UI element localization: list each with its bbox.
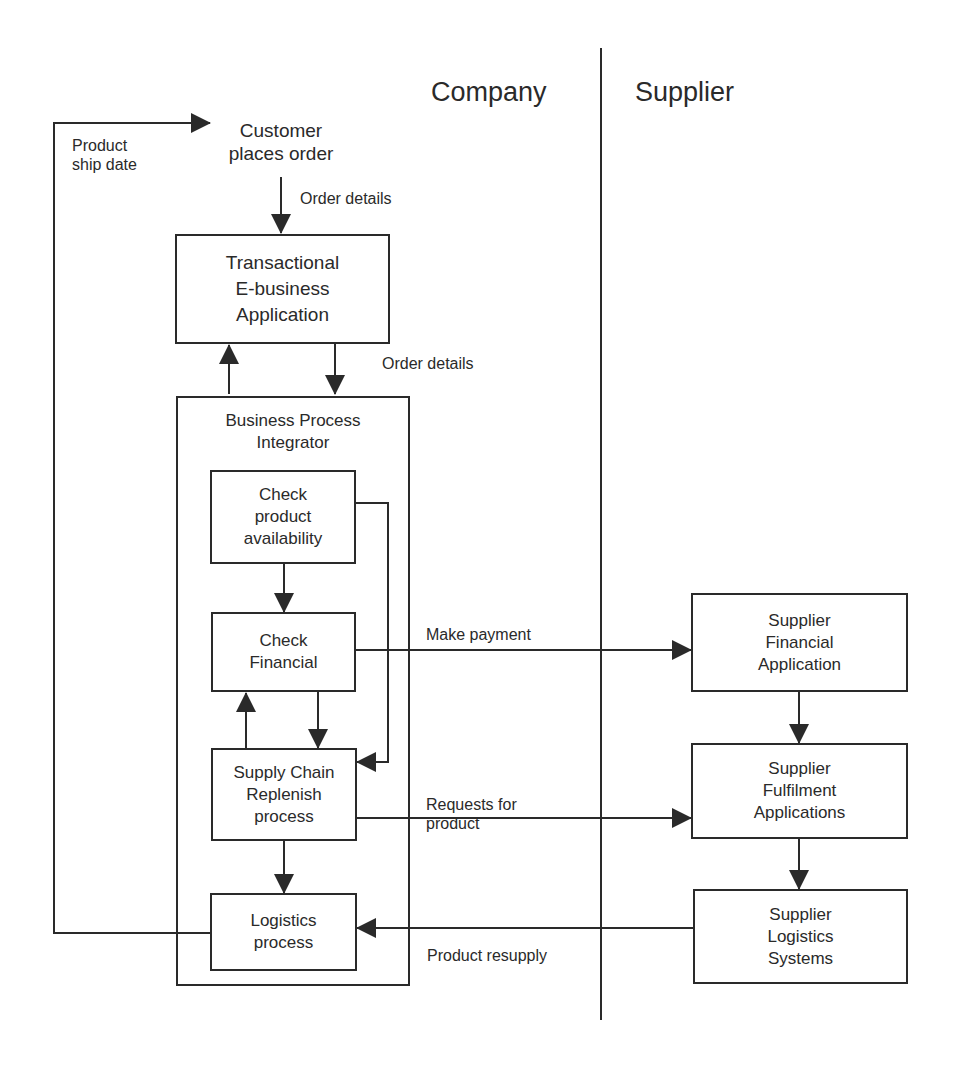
label-make-payment: Make payment: [426, 625, 531, 644]
check-availability-box[interactable]: Check product availability: [210, 470, 356, 564]
supplier-fulfilment-box[interactable]: Supplier Fulfilment Applications: [691, 743, 908, 839]
label-order-details-2: Order details: [382, 354, 474, 373]
label-product-ship-date: Product ship date: [72, 136, 137, 174]
supplier-financial-box[interactable]: Supplier Financial Application: [691, 593, 908, 692]
supplier-header: Supplier: [635, 76, 734, 108]
supplier-logistics-box[interactable]: Supplier Logistics Systems: [693, 889, 908, 984]
customer-places-order: Customer places order: [216, 120, 346, 166]
integrator-title: Business Process Integrator: [225, 410, 360, 454]
company-header: Company: [431, 76, 547, 108]
label-requests-for-product: Requests for product: [426, 795, 517, 833]
label-product-resupply: Product resupply: [427, 946, 547, 965]
transactional-ebusiness-box[interactable]: Transactional E-business Application: [175, 234, 390, 344]
supply-chain-box[interactable]: Supply Chain Replenish process: [211, 748, 357, 841]
label-order-details-1: Order details: [300, 189, 392, 208]
check-financial-box[interactable]: Check Financial: [211, 612, 356, 692]
logistics-process-box[interactable]: Logistics process: [210, 893, 357, 971]
